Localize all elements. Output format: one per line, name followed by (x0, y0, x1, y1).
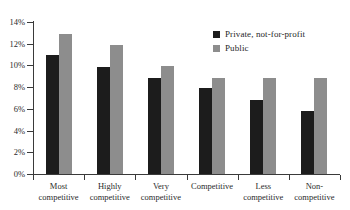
bar (314, 78, 327, 174)
x-tick-mark (289, 175, 290, 180)
y-tick-label: 14% (0, 17, 25, 27)
bar-chart: 0%2%4%6%8%10%12%14% Most competitiveHigh… (0, 0, 350, 210)
bar (161, 66, 174, 174)
x-tick-mark (187, 175, 188, 180)
y-tick-label: 12% (0, 39, 25, 49)
bar (199, 88, 212, 174)
bar (148, 78, 161, 174)
bar (250, 100, 263, 174)
y-tick-label: 10% (0, 60, 25, 70)
legend-item: Public (213, 42, 305, 54)
x-tick-mark (135, 175, 136, 180)
bar (301, 111, 314, 175)
y-tick-label: 4% (0, 126, 25, 136)
y-tick-label: 2% (0, 147, 25, 157)
bar (59, 34, 72, 174)
x-tick-mark (84, 175, 85, 180)
bar (263, 78, 276, 174)
y-tick-label: 8% (0, 82, 25, 92)
y-tick-label: 6% (0, 104, 25, 114)
legend-label: Private, not-for-profit (225, 29, 305, 39)
legend-swatch-icon (213, 45, 220, 52)
x-tick-mark (33, 175, 34, 180)
bar (97, 67, 110, 174)
x-category-label: Non- competitive (285, 181, 344, 202)
legend: Private, not-for-profitPublic (213, 28, 305, 56)
bar (46, 55, 59, 174)
bar (212, 78, 225, 174)
legend-swatch-icon (213, 31, 220, 38)
bar (110, 45, 123, 174)
x-tick-mark (238, 175, 239, 180)
legend-label: Public (225, 43, 249, 53)
x-tick-mark (340, 175, 341, 180)
legend-item: Private, not-for-profit (213, 28, 305, 40)
y-tick-label: 0% (0, 169, 25, 179)
